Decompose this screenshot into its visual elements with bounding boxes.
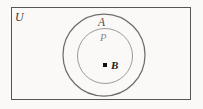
point-b-marker	[103, 63, 107, 67]
universe-label: U	[15, 11, 24, 23]
set-diagram-figure: U A P B	[0, 0, 203, 109]
point-b-label: B	[111, 60, 118, 71]
set-p-label: P	[100, 33, 106, 44]
set-a-label: A	[98, 17, 105, 29]
